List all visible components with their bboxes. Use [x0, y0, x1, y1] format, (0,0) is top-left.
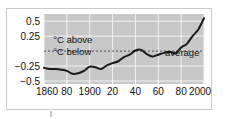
x-tick-label: 20	[107, 86, 119, 97]
x-tick-label: 40	[130, 86, 142, 97]
chart-figure: 0.5 0.25 −0.25 −0.5 1860 80 1900 20 40 6…	[0, 0, 226, 119]
x-tick-label: 60	[153, 86, 165, 97]
x-tick-label: 2000	[189, 86, 212, 97]
y-tick-label: 0.5	[26, 16, 40, 27]
y-tick-label: 0.25	[21, 31, 41, 42]
above-average-label: °C above	[53, 34, 92, 45]
x-tick-label: 1860	[36, 86, 59, 97]
x-tick-label: 1900	[79, 86, 102, 97]
x-tick-label: 80	[176, 86, 188, 97]
temperature-anomaly-chart: 0.5 0.25 −0.25 −0.5 1860 80 1900 20 40 6…	[0, 0, 226, 119]
y-tick-label: −0.5	[20, 76, 40, 87]
average-label: average	[165, 47, 199, 58]
x-tick-label: 80	[61, 86, 73, 97]
y-tick-label: −0.25	[15, 61, 41, 72]
below-average-label: °C below	[53, 46, 91, 57]
